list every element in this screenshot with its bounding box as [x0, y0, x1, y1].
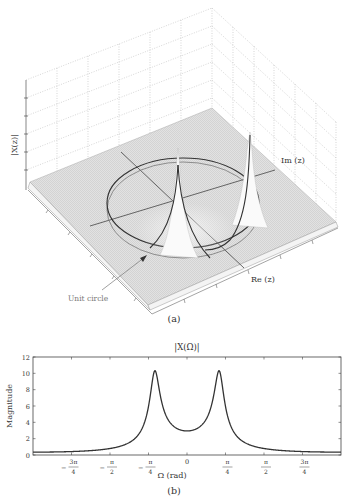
- svg-text:−: −: [61, 464, 66, 472]
- x-tick-label: π2: [261, 458, 271, 475]
- figure-a-caption: (a): [167, 313, 180, 324]
- x-axis-ticks: [72, 357, 303, 455]
- y-tick-label: 0: [26, 452, 30, 460]
- plot-frame: [33, 357, 341, 455]
- y-tick-label: 6: [26, 403, 30, 411]
- z-axis: [24, 80, 28, 190]
- svg-text:4: 4: [72, 468, 76, 475]
- unit-circle-label: Unit circle: [68, 294, 109, 303]
- y-tick-label: 8: [26, 386, 30, 394]
- svg-text:π: π: [149, 458, 153, 465]
- re-axis-label: Re (z): [251, 275, 275, 284]
- y-axis-label: Magnitude: [5, 384, 14, 428]
- im-axis-label: Im (z): [281, 156, 305, 165]
- magnitude-curve: [33, 371, 341, 452]
- figure-b-caption: (b): [167, 485, 181, 496]
- x-tick-label: 0: [185, 458, 189, 466]
- svg-text:4: 4: [303, 468, 307, 475]
- svg-text:2: 2: [264, 468, 268, 475]
- svg-text:4: 4: [226, 468, 230, 475]
- svg-text:−: −: [138, 464, 143, 472]
- y-tick-label: 10: [22, 370, 30, 378]
- svg-text:π: π: [110, 458, 114, 465]
- chart-title: |X(Ω)|: [174, 342, 199, 353]
- svg-text:3π: 3π: [70, 458, 78, 465]
- x-axis-label: Ω (rad): [157, 471, 186, 480]
- y-tick-label: 12: [22, 354, 30, 362]
- svg-text:3π: 3π: [301, 458, 309, 465]
- x-axis-tick-labels: 3π4−π2−π4−0π4π23π4: [61, 458, 309, 475]
- z-axis-label: |X(z)|: [10, 134, 19, 156]
- figure-a-3d-surface: |X(z)|: [0, 0, 348, 340]
- x-tick-label: π4−: [138, 458, 155, 475]
- svg-text:−: −: [100, 464, 105, 472]
- y-axis-tick-labels: 024681012: [22, 354, 30, 460]
- x-tick-label: π2−: [100, 458, 117, 475]
- svg-text:4: 4: [149, 468, 153, 475]
- svg-text:2: 2: [110, 468, 114, 475]
- x-tick-label: 3π4−: [61, 458, 78, 475]
- y-tick-label: 2: [26, 435, 30, 443]
- y-axis-ticks: [33, 357, 341, 455]
- x-tick-label: 3π4: [299, 458, 309, 475]
- svg-text:π: π: [226, 458, 230, 465]
- svg-text:0: 0: [185, 458, 189, 466]
- y-tick-label: 4: [26, 419, 30, 427]
- x-tick-label: π4: [222, 458, 232, 475]
- svg-text:π: π: [264, 458, 268, 465]
